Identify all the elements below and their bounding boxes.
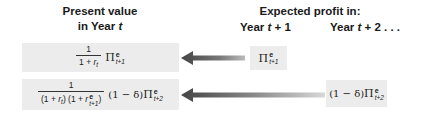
- year-t-plus-1-heading: Year t + 1: [240, 21, 291, 33]
- expected-profit-box-year-t-plus-1: Π et+1: [250, 46, 287, 70]
- present-value-box-year-t-plus-1: 1 1 + rt Π et+1: [22, 43, 179, 72]
- present-value-box-year-t-plus-2: 1 (1 + rt) (1 + ret+1) (1 − δ) Π et+2: [22, 79, 179, 110]
- expected-profit-heading: Expected profit in:: [255, 5, 365, 17]
- present-value-heading: Present value in Year t: [40, 5, 160, 32]
- discount-fraction-2: 1 (1 + rt) (1 + ret+1): [38, 81, 104, 107]
- year-t-plus-2-heading: Year t + 2 . . .: [330, 21, 400, 33]
- discount-fraction-1: 1 1 + rt: [76, 45, 101, 70]
- profit-formula-2: (1 − δ) Π et+2: [329, 87, 384, 101]
- left-arrow-long-icon: [181, 88, 325, 102]
- present-value-line1: Present value: [40, 5, 160, 17]
- pv-formula-2: 1 (1 + rt) (1 + ret+1) (1 − δ) Π et+2: [38, 81, 163, 107]
- profit-formula-1: Π et+1: [259, 51, 279, 65]
- pv-formula-1: 1 1 + rt Π et+1: [76, 45, 125, 70]
- left-arrow-icon: [181, 51, 245, 65]
- present-value-line2: in Year t: [40, 20, 160, 32]
- expected-profit-box-year-t-plus-2: (1 − δ) Π et+2: [326, 80, 387, 107]
